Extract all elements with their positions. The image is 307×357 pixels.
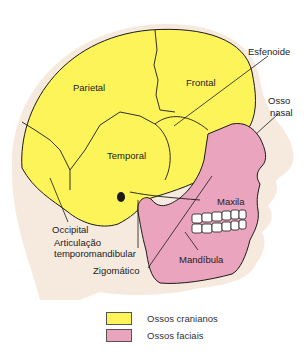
label-zigomatico: Zigomático: [93, 265, 139, 276]
legend-swatch-cranial: [106, 312, 132, 325]
label-esfenoide: Esfenoide: [248, 46, 290, 57]
ear-canal: [117, 192, 125, 202]
legend-label-facial: Ossos faciais: [147, 330, 204, 341]
legend-item-cranial: Ossos cranianos: [106, 310, 218, 327]
legend-label-cranial: Ossos cranianos: [147, 313, 218, 324]
legend-swatch-facial: [106, 329, 132, 342]
legend: Ossos cranianos Ossos faciais: [106, 310, 218, 344]
label-osso-nasal-line2: nasal: [270, 107, 293, 118]
label-temporal: Temporal: [107, 150, 146, 161]
label-articulacao-line1: Articulação: [54, 237, 101, 248]
label-osso-nasal-line1: Osso: [268, 95, 290, 106]
label-mandibula: Mandíbula: [179, 254, 223, 265]
label-maxila: Maxila: [217, 196, 244, 207]
label-occipital: Occipital: [52, 224, 88, 235]
label-parietal: Parietal: [73, 82, 105, 93]
label-frontal: Frontal: [186, 77, 216, 88]
label-articulacao-line2: temporomandibular: [54, 248, 136, 259]
legend-item-facial: Ossos faciais: [106, 327, 218, 344]
